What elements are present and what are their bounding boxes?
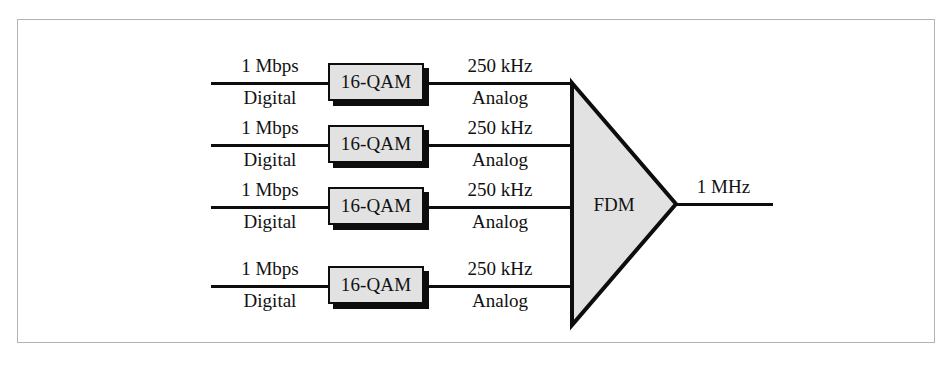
- channel-input-rate-label: 1 Mbps: [211, 117, 329, 139]
- channel-input-wire: [211, 144, 329, 147]
- channel-output-type-label: Analog: [426, 149, 574, 171]
- modulator-label: 16-QAM: [341, 274, 411, 296]
- modulator-box[interactable]: 16-QAM: [328, 63, 424, 101]
- channel-input-rate-label: 1 Mbps: [211, 258, 329, 280]
- channel-input-wire: [211, 285, 329, 288]
- channel-output-rate-label: 250 kHz: [426, 117, 574, 139]
- channel-output-wire: [424, 144, 574, 147]
- channel-input-wire: [211, 206, 329, 209]
- channel-output-rate-label: 250 kHz: [426, 258, 574, 280]
- figure-root: 1 MbpsDigital16-QAM250 kHzAnalog1 MbpsDi…: [0, 0, 952, 368]
- channel-input-rate-label: 1 Mbps: [211, 55, 329, 77]
- channel-output-rate-label: 250 kHz: [426, 55, 574, 77]
- figure-frame: 1 MbpsDigital16-QAM250 kHzAnalog1 MbpsDi…: [17, 19, 935, 343]
- channel-output-type-label: Analog: [426, 87, 574, 109]
- modulator-box[interactable]: 16-QAM: [328, 266, 424, 304]
- modulator-box[interactable]: 16-QAM: [328, 125, 424, 163]
- modulator-label: 16-QAM: [341, 195, 411, 217]
- modulator-label: 16-QAM: [341, 133, 411, 155]
- channel-output-rate-label: 250 kHz: [426, 179, 574, 201]
- channel-output-type-label: Analog: [426, 211, 574, 233]
- channel-input-type-label: Digital: [211, 290, 329, 312]
- channel-output-type-label: Analog: [426, 290, 574, 312]
- output-wire: [674, 203, 773, 206]
- output-rate-label: 1 MHz: [674, 176, 773, 198]
- fdm-label: FDM: [583, 194, 645, 216]
- channel-input-rate-label: 1 Mbps: [211, 179, 329, 201]
- channel-input-wire: [211, 82, 329, 85]
- channel-input-type-label: Digital: [211, 87, 329, 109]
- modulator-box[interactable]: 16-QAM: [328, 187, 424, 225]
- channel-input-type-label: Digital: [211, 211, 329, 233]
- channel-output-wire: [424, 206, 574, 209]
- channel-output-wire: [424, 285, 574, 288]
- modulator-label: 16-QAM: [341, 71, 411, 93]
- channel-output-wire: [424, 82, 574, 85]
- channel-input-type-label: Digital: [211, 149, 329, 171]
